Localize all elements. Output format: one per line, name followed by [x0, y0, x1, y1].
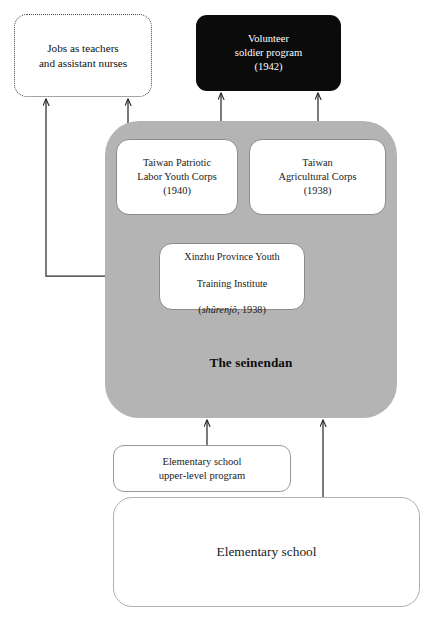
taiwan-patriotic-labor-youth-corps-box: Taiwan Patriotic Labor Youth Corps (1940… — [116, 139, 238, 215]
diagram-canvas: The seinendan Jobs as teachers and assis… — [0, 0, 433, 622]
xinzhu-line3-rest: , 1938) — [237, 304, 266, 315]
volunteer-soldier-program-label: Volunteer soldier program (1942) — [235, 32, 302, 74]
xinzhu-line2: Training Institute — [197, 278, 268, 289]
elementary-school-upper-level-program-label: Elementary school upper-level program — [159, 455, 246, 483]
xinzhu-line1: Xinzhu Province Youth — [184, 251, 279, 262]
taiwan-agricultural-corps-label: Taiwan Agricultural Corps (1938) — [278, 156, 356, 197]
xinzhu-label: Xinzhu Province Youth Training Institute… — [184, 236, 279, 317]
xinzhu-romanization: shûrenjô — [202, 304, 237, 315]
outcome-jobs-label: Jobs as teachers and assistant nurses — [39, 41, 127, 71]
elementary-school-box: Elementary school — [113, 497, 420, 607]
elementary-school-label: Elementary school — [216, 543, 316, 561]
taiwan-agricultural-corps-box: Taiwan Agricultural Corps (1938) — [249, 139, 386, 215]
volunteer-soldier-program-box: Volunteer soldier program (1942) — [196, 15, 341, 91]
xinzhu-province-youth-training-institute-box: Xinzhu Province Youth Training Institute… — [159, 243, 305, 310]
seinendan-label: The seinendan — [105, 355, 397, 371]
elementary-school-upper-level-program-box: Elementary school upper-level program — [113, 445, 291, 492]
outcome-jobs-box: Jobs as teachers and assistant nurses — [14, 14, 152, 97]
taiwan-patriotic-labor-youth-corps-label: Taiwan Patriotic Labor Youth Corps (1940… — [137, 156, 216, 197]
